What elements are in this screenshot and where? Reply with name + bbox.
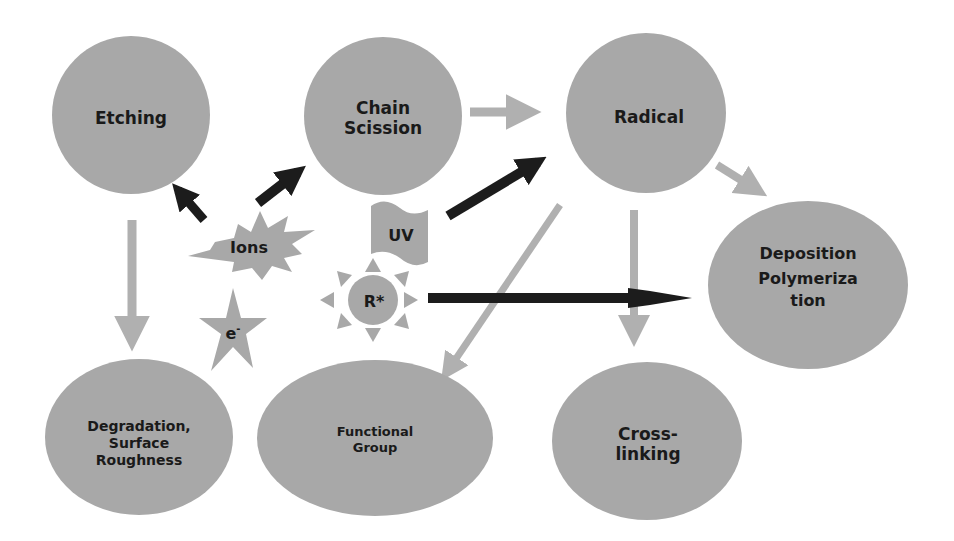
label-radical: Radical bbox=[614, 107, 684, 127]
arrow-ions-to-etching bbox=[178, 190, 204, 220]
label-r-star: R* bbox=[364, 292, 385, 311]
label-etching: Etching bbox=[95, 108, 167, 128]
plasma-surface-interaction-diagram: Etching Chain Scission Radical Depositio… bbox=[0, 0, 954, 541]
arrow-radical-to-deposition bbox=[717, 165, 757, 190]
label-deposition-polymerization: Deposition Polymeriza tion bbox=[758, 242, 858, 309]
label-degradation-surface-roughness: Degradation, Surface Roughness bbox=[87, 418, 190, 468]
label-crosslinking: Cross- linking bbox=[615, 424, 680, 465]
label-chain-scission: Chain Scission bbox=[344, 98, 422, 139]
arrow-r-star-to-deposition-head bbox=[628, 288, 692, 308]
label-electron: e- bbox=[225, 323, 240, 343]
arrow-uv-to-radical bbox=[448, 162, 538, 216]
arrow-ions-to-chain-scission bbox=[258, 172, 298, 203]
label-functional-group: Functional Group bbox=[337, 424, 414, 455]
label-ions: Ions bbox=[230, 238, 268, 257]
arrow-radical-to-functional-group bbox=[447, 205, 560, 372]
label-uv: UV bbox=[388, 226, 413, 245]
